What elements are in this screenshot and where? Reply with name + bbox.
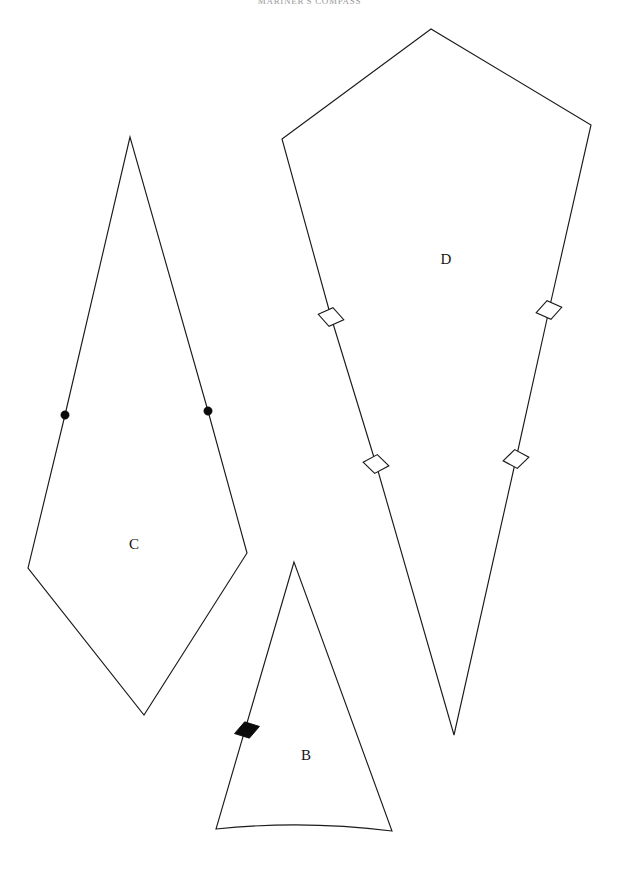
piece-b-label: B — [301, 747, 311, 763]
pattern-drawing-canvas: C B D — [0, 0, 619, 869]
piece-c-outline[interactable] — [28, 137, 247, 715]
piece-d-label: D — [441, 251, 452, 267]
piece-c-dot-marker-left — [61, 411, 69, 419]
piece-c-group[interactable]: C — [28, 137, 247, 715]
piece-d-outline[interactable] — [282, 29, 591, 735]
piece-c-dot-marker-right — [204, 407, 212, 415]
piece-d-group[interactable]: D — [282, 29, 591, 735]
piece-b-outline[interactable] — [216, 562, 392, 831]
piece-c-label: C — [129, 536, 139, 552]
pattern-sheet-page: MARINER'S COMPASS C B D — [0, 0, 619, 869]
piece-b-group[interactable]: B — [216, 562, 392, 831]
